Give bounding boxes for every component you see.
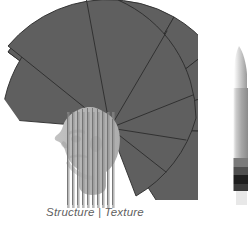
figure-root: Structure | Texture (0, 0, 248, 228)
right-figure-band-4 (234, 184, 249, 191)
right-figure-band-2 (234, 167, 249, 175)
right-figure-foot (236, 191, 247, 205)
right-figure-shaft (234, 88, 249, 160)
right-figure-band-1 (234, 158, 249, 167)
ear-shadow (90, 136, 102, 152)
cropped-vertical-figure-group (234, 46, 249, 205)
right-figure-band-3 (234, 175, 249, 184)
figure-illustration (0, 0, 248, 228)
figure-caption: Structure | Texture (0, 206, 190, 218)
